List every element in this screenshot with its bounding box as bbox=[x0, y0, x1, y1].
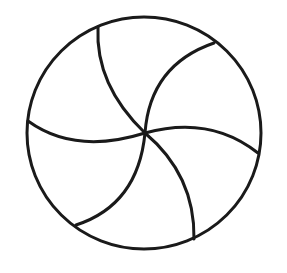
pinwheel-diagram bbox=[0, 0, 287, 273]
spiral-arc-left bbox=[28, 121, 145, 142]
spiral-arc-upper-right bbox=[145, 43, 214, 133]
spiral-arc-top bbox=[98, 27, 145, 133]
spiral-arc-lower-left bbox=[76, 133, 145, 225]
spiral-arc-bottom bbox=[145, 133, 194, 239]
